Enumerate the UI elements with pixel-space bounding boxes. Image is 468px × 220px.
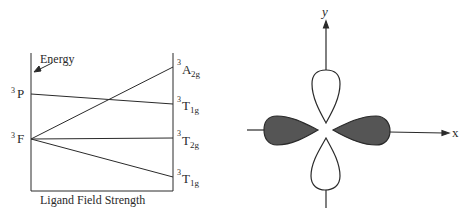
energy-diagram-labels: Energy Ligand Field Strength 3P 3F 3A2g … (11, 52, 201, 207)
term-3T1g-upper: 3T1g (177, 95, 200, 115)
orbital-diagram (247, 21, 449, 208)
x-axis-label: x (452, 125, 459, 140)
term-3P: 3P (11, 86, 24, 101)
energy-level-diagram (31, 53, 173, 191)
line-3F-to-3T1g (31, 139, 173, 177)
term-3T1g-lower: 3T1g (177, 168, 200, 188)
x-axis-arrowhead-icon (442, 131, 449, 136)
top-lobe (312, 70, 340, 123)
term-3A2g: 3A2g (177, 58, 201, 79)
y-axis-label: y (320, 4, 328, 19)
figure: Energy Ligand Field Strength 3P 3F 3A2g … (0, 0, 468, 220)
y-axis-arrowhead-icon (324, 21, 329, 28)
term-3T2g: 3T2g (177, 129, 200, 150)
line-3F-to-3T2g (31, 138, 173, 139)
energy-arrowhead-icon (34, 66, 41, 72)
x-axis-right (389, 132, 444, 133)
energy-label: Energy (40, 52, 74, 66)
left-lobe-shaded (264, 116, 318, 145)
term-3F: 3F (11, 131, 24, 146)
right-lobe-shaded (333, 116, 390, 145)
ligand-field-strength-label: Ligand Field Strength (40, 193, 145, 207)
bottom-lobe (311, 138, 340, 190)
